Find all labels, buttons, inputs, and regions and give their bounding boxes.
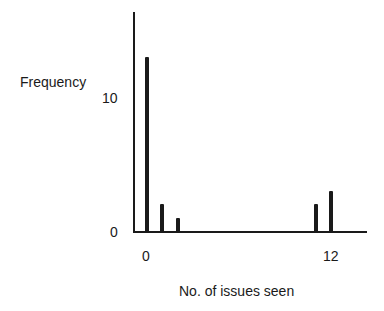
bar-x-2: [176, 218, 180, 231]
x-tick-12: 12: [323, 248, 339, 264]
bar-x-12: [329, 191, 333, 231]
x-tick-0: 0: [142, 248, 150, 264]
bar-chart: Frequency 10 0 0 12 No. of issues seen: [0, 0, 384, 311]
y-tick-0: 0: [110, 224, 118, 240]
y-axis: [133, 12, 135, 233]
x-axis: [133, 231, 367, 233]
x-axis-label: No. of issues seen: [179, 283, 294, 299]
y-tick-10: 10: [102, 90, 118, 106]
bar-x-11: [314, 204, 318, 231]
y-axis-label: Frequency: [20, 74, 86, 90]
bar-x-1: [160, 204, 164, 231]
bar-x-0: [145, 57, 149, 231]
